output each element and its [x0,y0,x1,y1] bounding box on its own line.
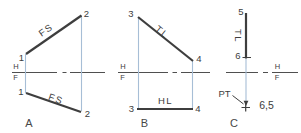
hf-label-f-c: F [275,74,280,82]
point-label-3-lower: 3 [129,104,134,114]
point-label-1-lower: 1 [18,87,23,97]
hf-label-f-b: F [120,74,125,82]
panel-caption-c: C [230,118,238,129]
point-label-2-upper: 2 [84,9,89,19]
hf-label-h-c: H [275,63,280,71]
point-label-1-upper: 1 [19,53,24,63]
line-label-hl: HL [158,96,173,106]
point-label-4-upper: 4 [196,54,201,64]
hf-label-h-b: H [120,63,125,71]
distance-value: 6,5 [259,99,274,110]
point-cross-mark [242,104,251,112]
point-label-5: 5 [238,7,243,17]
pt-leader-line [233,96,244,105]
segment-a-upper-12 [26,16,82,55]
panel-caption-a: A [25,117,32,128]
panel-caption-b: B [141,118,148,129]
hf-label-f-a: F [13,74,18,82]
point-label-4-lower: 4 [195,104,200,114]
line-label-tl-c: TL [233,29,243,43]
descriptive-geometry-figure: H F FS FS 1 2 1 2 A H F TL HL 3 4 3 4 B … [0,0,301,133]
point-label-2-lower: 2 [85,109,90,119]
drawing-canvas [0,0,301,133]
point-label-3-upper: 3 [128,9,133,19]
point-label-6: 6 [235,51,240,61]
pt-label: PT [218,89,230,99]
hf-label-h-a: H [13,63,18,71]
segment-b-upper-34 [138,17,193,61]
